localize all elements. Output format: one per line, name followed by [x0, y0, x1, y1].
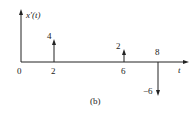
x-axis-label: t — [178, 66, 181, 75]
origin-label: 0 — [17, 67, 22, 76]
figure-caption: (b) — [90, 97, 101, 106]
tick-label-t6: 6 — [121, 67, 126, 76]
weight-label-t2: 4 — [47, 32, 52, 41]
tick-label-t2: 2 — [51, 67, 56, 76]
tick-label-t8: 8 — [155, 48, 160, 57]
weight-label-t8: −6 — [143, 87, 153, 96]
y-axis-label: x′(t) — [26, 11, 40, 20]
weight-label-t6: 2 — [116, 42, 121, 51]
